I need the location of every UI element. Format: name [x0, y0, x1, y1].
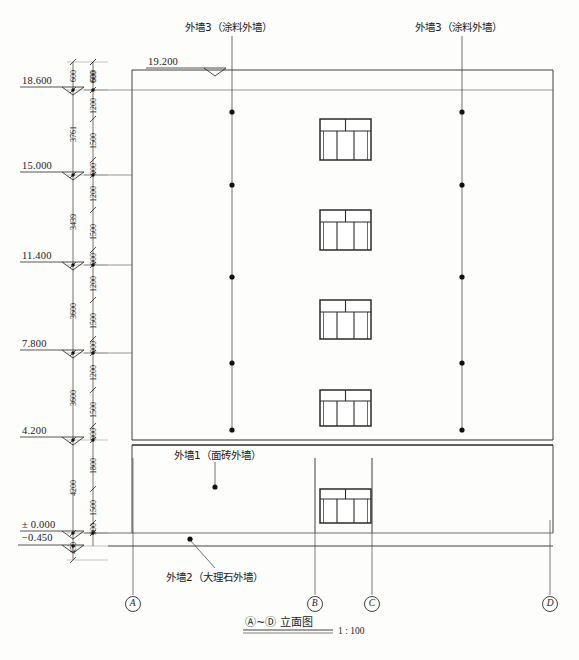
annotation-wall2: 外墙2（大理石外墙）: [166, 572, 263, 583]
dimension-value: 1200: [90, 365, 98, 381]
elevation-value: 19.200: [148, 57, 178, 68]
elevation-value: 15.000: [22, 161, 52, 172]
dimension-value: 1200: [90, 186, 98, 202]
annotation-wall3-left: 外墙3（涂料外墙）: [185, 22, 272, 33]
elevation-value: 7.800: [22, 339, 47, 350]
dimension-value: 3439: [70, 214, 78, 230]
dimension-value: 450: [70, 542, 78, 554]
annotation-wall3-right: 外墙3（涂料外墙）: [415, 22, 502, 33]
dimension-value: 900: [90, 428, 98, 440]
elevation-value: ± 0.000: [22, 520, 55, 531]
dimension-value: 900: [90, 253, 98, 265]
dimension-value: 1500: [90, 500, 98, 516]
grid-axis-label-a[interactable]: A: [130, 599, 136, 609]
dimension-value: 1500: [90, 402, 98, 418]
dimension-value: 900: [90, 341, 98, 353]
elevation-value: 11.400: [22, 251, 52, 262]
dimension-value: 1200: [90, 98, 98, 114]
elevation-value: −0.450: [22, 533, 53, 544]
dimension-value: 1500: [90, 133, 98, 149]
dimension-value: 4200: [70, 480, 78, 496]
dimension-value: 1500: [90, 313, 98, 329]
dimension-value: 900: [90, 523, 98, 535]
drawing-canvas: [0, 0, 579, 660]
dimension-value: 900: [90, 163, 98, 175]
elevation-value: 18.600: [22, 76, 52, 87]
dimension-value-top: 600: [70, 70, 78, 82]
dimension-value: 3600: [70, 303, 78, 319]
dimension-value: 1500: [90, 224, 98, 240]
grid-axis-label-c[interactable]: C: [369, 599, 375, 609]
dimension-value-top: 600: [90, 70, 98, 82]
grid-axis-label-b[interactable]: B: [312, 599, 318, 609]
elevation-drawing-sheet: 19.20018.60015.00011.4007.8004.200± 0.00…: [0, 0, 579, 660]
dimension-value: 1200: [90, 276, 98, 292]
elevation-value: 4.200: [22, 426, 47, 437]
drawing-title: Ⓐ~Ⓓ 立面图: [245, 617, 313, 628]
dimension-value: 1800: [90, 458, 98, 474]
dimension-value: 3600: [70, 390, 78, 406]
annotation-wall1: 外墙1（面砖外墙）: [174, 450, 261, 461]
grid-axis-label-d[interactable]: D: [547, 599, 554, 609]
dimension-value: 3761: [70, 126, 78, 142]
drawing-scale: 1 : 100: [338, 627, 364, 637]
